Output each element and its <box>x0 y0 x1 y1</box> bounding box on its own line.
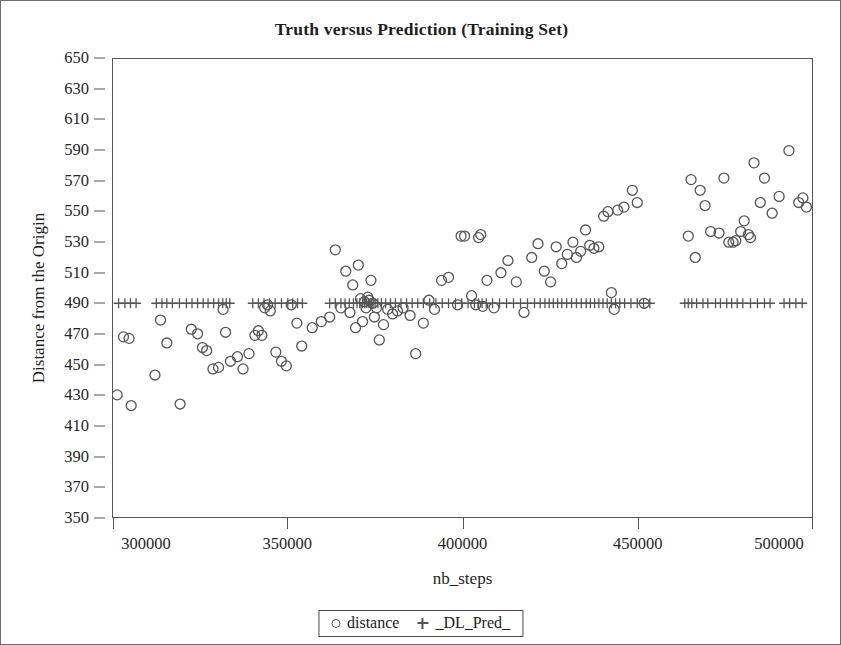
data-point-circle <box>683 231 693 241</box>
data-point-circle <box>214 362 224 372</box>
plot-area <box>112 58 813 518</box>
y-tick-mark <box>94 303 105 304</box>
data-point-circle <box>244 349 254 359</box>
data-point-circle <box>476 230 486 240</box>
legend-item-dl-pred: _DL_Pred_ <box>417 614 510 632</box>
y-tick-label: 630 <box>64 79 89 99</box>
data-point-circle <box>511 277 521 287</box>
data-point-circle <box>162 338 172 348</box>
data-point-circle <box>755 198 765 208</box>
data-point-circle <box>405 311 415 321</box>
data-point-circle <box>686 175 696 185</box>
data-point-circle <box>307 323 317 333</box>
x-tick-mark <box>463 518 464 529</box>
data-point-plus <box>297 298 307 308</box>
y-tick-label: 510 <box>64 263 89 283</box>
data-point-circle <box>345 307 355 317</box>
data-point-circle <box>632 198 642 208</box>
y-tick-label: 490 <box>64 293 89 313</box>
data-point-circle <box>739 216 749 226</box>
data-point-circle <box>801 202 811 212</box>
data-point-circle <box>238 364 248 374</box>
data-point-circle <box>221 327 231 337</box>
x-tick-mark <box>287 518 288 529</box>
data-point-circle <box>731 236 741 246</box>
data-point-circle <box>348 280 358 290</box>
data-point-circle <box>749 158 759 168</box>
y-tick-label: 390 <box>64 447 89 467</box>
data-point-circle <box>418 318 428 328</box>
page-title: Truth versus Prediction (Training Set) <box>1 19 841 40</box>
y-tick-label: 350 <box>64 508 89 528</box>
data-point-circle <box>489 303 499 313</box>
data-point-circle <box>297 341 307 351</box>
data-point-plus <box>645 298 655 308</box>
x-tick-mark <box>113 518 114 529</box>
y-tick-label: 570 <box>64 171 89 191</box>
data-point-circle <box>369 312 379 322</box>
y-tick-label: 610 <box>64 109 89 129</box>
y-tick-label: 450 <box>64 355 89 375</box>
y-tick-mark <box>94 242 105 243</box>
data-point-circle <box>606 288 616 298</box>
y-tick-mark <box>94 395 105 396</box>
data-point-circle <box>527 252 537 262</box>
data-point-circle <box>533 239 543 249</box>
data-point-circle <box>774 191 784 201</box>
data-point-circle <box>150 370 160 380</box>
y-tick-mark <box>94 272 105 273</box>
y-tick-mark <box>94 180 105 181</box>
data-point-circle <box>719 173 729 183</box>
y-tick-label: 530 <box>64 232 89 252</box>
x-tick-label: 350000 <box>263 534 313 554</box>
data-point-circle <box>568 237 578 247</box>
y-tick-mark <box>94 88 105 89</box>
y-tick-mark <box>94 119 105 120</box>
x-tick-mark <box>638 518 639 529</box>
data-point-circle <box>482 275 492 285</box>
y-tick-label: 410 <box>64 416 89 436</box>
data-point-plus <box>765 298 775 308</box>
data-point-circle <box>746 233 756 243</box>
legend-label: distance <box>347 614 399 632</box>
circle-marker-icon <box>331 619 340 628</box>
data-point-circle <box>232 352 242 362</box>
data-point-circle <box>358 317 368 327</box>
data-point-circle <box>496 268 506 278</box>
y-tick-mark <box>94 334 105 335</box>
data-point-circle <box>546 277 556 287</box>
y-tick-label: 650 <box>64 48 89 68</box>
data-point-circle <box>411 349 421 359</box>
legend-item-distance: distance <box>331 614 399 632</box>
data-point-plus <box>131 298 141 308</box>
data-point-circle <box>609 304 619 314</box>
y-tick-label: 430 <box>64 385 89 405</box>
data-points-layer <box>113 59 812 517</box>
data-point-circle <box>126 401 136 411</box>
data-point-circle <box>124 333 134 343</box>
data-point-circle <box>113 390 122 400</box>
legend-label: _DL_Pred_ <box>435 614 510 632</box>
y-axis: 3503703904104304504704905105305505705906… <box>1 58 105 518</box>
y-tick-mark <box>94 426 105 427</box>
data-point-circle <box>690 252 700 262</box>
data-point-circle <box>695 185 705 195</box>
data-point-circle <box>784 146 794 156</box>
data-point-circle <box>225 356 235 366</box>
data-point-circle <box>379 320 389 330</box>
y-tick-label: 590 <box>64 140 89 160</box>
data-point-circle <box>366 275 376 285</box>
data-point-circle <box>503 256 513 266</box>
data-point-circle <box>557 259 567 269</box>
data-point-circle <box>374 335 384 345</box>
y-tick-mark <box>94 211 105 212</box>
data-point-circle <box>453 300 463 310</box>
plus-marker-icon <box>417 618 428 629</box>
y-tick-mark <box>94 58 105 59</box>
y-tick-mark <box>94 518 105 519</box>
data-point-circle <box>353 260 363 270</box>
data-point-circle <box>341 266 351 276</box>
y-tick-mark <box>94 456 105 457</box>
chart-legend: distance _DL_Pred_ <box>318 610 523 637</box>
chart-page: Truth versus Prediction (Training Set) D… <box>0 0 841 645</box>
